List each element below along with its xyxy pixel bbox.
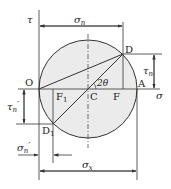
angle-label: 2θ bbox=[96, 78, 109, 88]
tau-n-prime-label: τn′ bbox=[7, 99, 20, 114]
sigma-x-label: σx bbox=[82, 159, 93, 172]
point-C-label: C bbox=[90, 91, 98, 102]
tau-axis-label: τ bbox=[27, 14, 33, 25]
point-O-label: O bbox=[25, 77, 33, 88]
sigma-axis-label: σ bbox=[156, 90, 164, 101]
point-A-label: A bbox=[137, 78, 146, 89]
point-D-label: D bbox=[125, 44, 133, 55]
mohr-circle-diagram: τ σ σn τn τn′ σn′ σx O D A C F F1 D1 2θ bbox=[0, 0, 171, 189]
sigma-n-label: σn bbox=[74, 14, 86, 27]
point-F-label: F bbox=[113, 91, 120, 102]
tau-n-label: τn bbox=[143, 65, 154, 78]
sigma-n-prime-label: σn′ bbox=[17, 140, 31, 155]
